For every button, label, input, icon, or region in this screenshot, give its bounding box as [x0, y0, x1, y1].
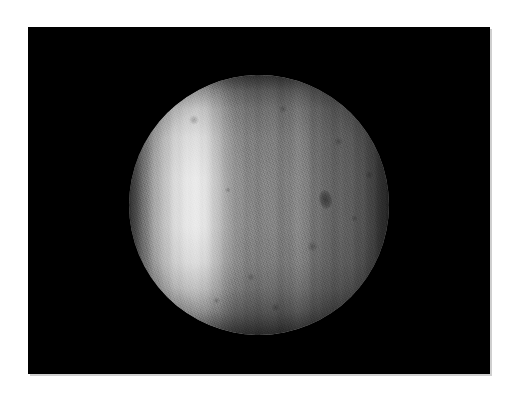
- image-plate: [28, 27, 490, 374]
- planetary-disk: [129, 75, 389, 335]
- figure-caption: [28, 378, 490, 392]
- plate-edge-shadow-right: [490, 29, 492, 376]
- figure-root: [0, 0, 522, 394]
- disk-limb-vignette: [129, 75, 389, 335]
- plate-edge-shadow-bottom: [30, 374, 492, 376]
